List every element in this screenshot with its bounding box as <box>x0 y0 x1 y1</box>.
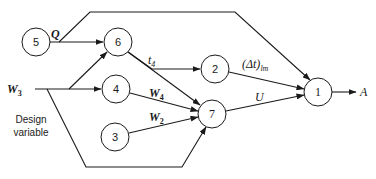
node-4-label: 4 <box>113 83 119 95</box>
node-3: 3 <box>101 123 129 151</box>
node-4: 4 <box>102 75 130 103</box>
node-5: 5 <box>22 28 50 56</box>
node-7-label: 7 <box>209 107 215 121</box>
node-1-label: 1 <box>315 85 321 99</box>
label-w4: W4 <box>149 86 164 102</box>
node-7: 7 <box>198 100 226 128</box>
label-w3: W3 <box>7 82 22 98</box>
label-t4: t4 <box>148 53 155 69</box>
node-2-label: 2 <box>212 63 218 75</box>
node-3-label: 3 <box>112 131 118 143</box>
label-delta-t-lm: (Δt)lm <box>242 57 269 73</box>
flow-diagram: 5 6 4 3 2 7 1 Q t4 W3 W4 W2 (Δt)lm U A D… <box>0 0 376 179</box>
design-variable-note-line1: Design <box>15 114 46 125</box>
label-delta-t-sub: lm <box>260 64 268 73</box>
node-5-label: 5 <box>33 36 39 48</box>
edge-5-to-1 <box>59 12 310 80</box>
node-6: 6 <box>104 28 132 56</box>
label-w4-sub: 4 <box>160 93 164 102</box>
edge-6-to-7 <box>128 52 200 105</box>
design-variable-note-line2: variable <box>13 127 48 138</box>
node-1: 1 <box>304 78 332 106</box>
node-6-label: 6 <box>115 36 121 48</box>
label-q: Q <box>51 27 60 41</box>
label-w3-sub: 3 <box>18 89 22 98</box>
edge-w3-to-6 <box>69 52 107 89</box>
label-w2-sub: 2 <box>160 117 164 126</box>
label-delta-t-main: (Δt) <box>242 57 260 71</box>
edge-w3-to-7 <box>47 89 206 167</box>
edge-2-to-1 <box>229 72 304 89</box>
label-t4-sub: 4 <box>151 60 155 69</box>
label-a: A <box>359 85 368 99</box>
label-u: U <box>255 90 265 104</box>
edge-7-to-1 <box>226 95 304 111</box>
node-2: 2 <box>201 55 229 83</box>
label-w2: W2 <box>149 110 164 126</box>
